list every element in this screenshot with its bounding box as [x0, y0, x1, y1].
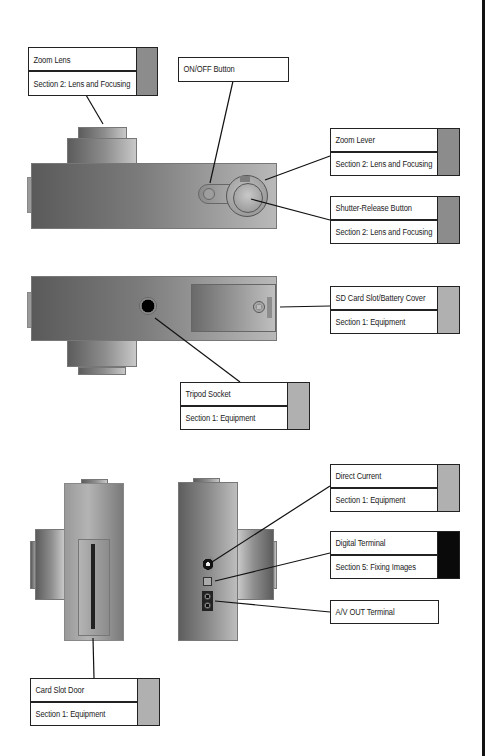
callout-section-link[interactable]: Section 2: Lens and Focusing — [331, 221, 432, 243]
av-out-jack-bottom — [204, 602, 211, 609]
callout-digital-terminal: Digital Terminal Section 5: Fixing Image… — [330, 531, 460, 579]
callout-av-out-terminal: A/V OUT Terminal — [330, 600, 439, 624]
digital-terminal-port — [203, 577, 212, 586]
section-color-swatch — [437, 129, 459, 175]
callout-section-link[interactable]: Section 1: Equipment — [31, 703, 105, 725]
callout-section-link[interactable]: Section 1: Equipment — [331, 311, 405, 333]
callout-section-link[interactable]: Section 2: Lens and Focusing — [331, 153, 432, 175]
callout-section-link[interactable]: Section 1: Equipment — [181, 407, 255, 429]
leader-lines — [0, 0, 486, 756]
callout-title: Zoom Lever — [331, 129, 375, 151]
callout-zoom-lever: Zoom Lever Section 2: Lens and Focusing — [330, 128, 460, 176]
callout-title: Tripod Socket — [181, 383, 231, 405]
section-color-swatch — [287, 383, 309, 429]
section-color-swatch — [437, 465, 459, 511]
callout-sd-card-slot: SD Card Slot/Battery Cover Section 1: Eq… — [330, 286, 460, 334]
shutter-release-button[interactable] — [233, 183, 263, 213]
lens-side-inner — [35, 529, 65, 600]
callout-title: Zoom Lens — [29, 48, 70, 71]
callout-section-link[interactable]: Section 5: Fixing Images — [331, 556, 416, 578]
page-edge-border — [482, 0, 485, 756]
callout-zoom-lens: Zoom Lens Section 2: Lens and Focusing — [28, 47, 158, 96]
battery-cover-latch-icon — [253, 301, 265, 313]
av-out-jack-top — [204, 593, 211, 600]
callout-shutter-release: Shutter-Release Button Section 2: Lens a… — [330, 196, 460, 244]
callout-title: A/V OUT Terminal — [331, 601, 395, 622]
callout-tripod-socket: Tripod Socket Section 1: Equipment — [180, 382, 310, 430]
callout-section-link[interactable]: Section 2: Lens and Focusing — [29, 72, 130, 95]
section-color-swatch — [137, 679, 159, 725]
lens-barrel-inner — [67, 138, 137, 164]
callout-section-link[interactable]: Section 1: Equipment — [331, 489, 405, 511]
callout-direct-current: Direct Current Section 1: Equipment — [330, 464, 460, 512]
card-slot-opening — [91, 544, 95, 629]
section-color-swatch — [437, 532, 459, 578]
section-color-swatch — [437, 287, 459, 333]
lens-side-inner-right — [237, 529, 274, 600]
section-color-swatch — [437, 197, 459, 243]
direct-current-port — [203, 556, 213, 571]
lens-barrel-bottom-inner — [67, 340, 137, 367]
callout-card-slot-door: Card Slot Door Section 1: Equipment — [30, 678, 160, 726]
zoom-lever-tab — [240, 176, 250, 182]
tripod-socket — [139, 297, 157, 315]
callout-title: ON/OFF Button — [179, 58, 235, 80]
on-off-button-knob — [203, 188, 215, 200]
callout-title: Card Slot Door — [31, 679, 84, 701]
callout-title: Digital Terminal — [331, 532, 385, 554]
battery-cover-grip — [267, 297, 272, 318]
callout-title: Shutter-Release Button — [331, 197, 412, 219]
lens-barrel-bottom-outer — [78, 367, 126, 375]
callout-on-off-button: ON/OFF Button — [178, 57, 289, 82]
callout-title: Direct Current — [331, 465, 381, 487]
callout-title: SD Card Slot/Battery Cover — [331, 287, 425, 309]
section-color-swatch — [136, 48, 157, 95]
